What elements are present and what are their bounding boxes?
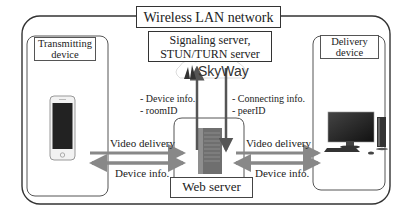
signaling-server-box: Signaling server, STUN/TURN server	[148, 31, 272, 62]
downlink-info: - Connecting info. - peerID	[232, 93, 305, 117]
delivery-device-line1: Delivery	[321, 36, 378, 48]
right-video-label: Video delivery	[246, 137, 311, 149]
uplink-info-line2: - roomID	[140, 105, 195, 117]
web-server-label-box: Web server	[170, 177, 253, 198]
signaling-server-line1: Signaling server,	[149, 34, 271, 47]
delivery-device-line2: device	[321, 47, 378, 59]
signaling-server-line2: STUN/TURN server	[149, 48, 271, 61]
desktop-pc-icon	[324, 112, 388, 155]
network-title-box: Wireless LAN network	[136, 6, 281, 28]
smartphone-icon	[50, 96, 75, 160]
right-info-label: Device info.	[255, 167, 309, 179]
web-server-label: Web server	[171, 180, 252, 194]
network-title: Wireless LAN network	[137, 10, 280, 25]
transmitting-device-label-box: Transmitting device	[34, 37, 96, 61]
skyway-logo-text: SkyWay	[198, 63, 249, 79]
left-video-label: Video delivery	[110, 137, 175, 149]
server-rack-icon	[198, 128, 222, 174]
transmitting-device-line2: device	[35, 49, 95, 61]
skyway-logo: SkyWay	[182, 63, 252, 81]
skyway-emblem-icon	[182, 64, 198, 80]
uplink-info: - Device info. - roomID	[140, 93, 195, 117]
uplink-info-line1: - Device info.	[140, 93, 195, 105]
downlink-info-line1: - Connecting info.	[232, 93, 305, 105]
downlink-info-line2: - peerID	[232, 105, 305, 117]
transmitting-device-line1: Transmitting	[35, 38, 95, 50]
delivery-device-label-box: Delivery device	[320, 35, 379, 59]
left-info-label: Device info.	[115, 167, 169, 179]
